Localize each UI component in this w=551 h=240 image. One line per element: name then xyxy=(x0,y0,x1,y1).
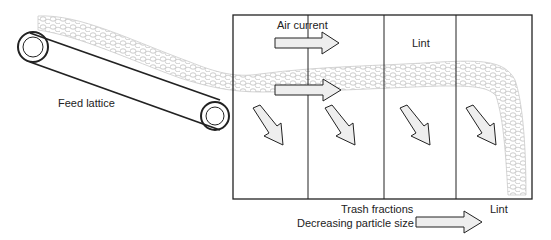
trash-fractions-label: Trash fractions xyxy=(341,204,413,215)
particle-size-arrow-icon xyxy=(416,211,482,233)
lint-top-label: Lint xyxy=(412,38,430,49)
roller-left-icon xyxy=(18,32,48,62)
diagram-canvas xyxy=(0,0,551,240)
roller-right-icon xyxy=(201,102,229,130)
arrow-down-right-icon xyxy=(400,105,430,145)
decreasing-particle-size-label: Decreasing particle size xyxy=(297,218,414,229)
arrow-down-right-icon xyxy=(253,105,283,145)
trash-fall-arrows xyxy=(253,105,496,145)
arrow-right-icon xyxy=(275,32,339,54)
feed-lattice-label: Feed lattice xyxy=(58,98,115,109)
arrow-down-right-icon xyxy=(466,105,496,145)
lint-bottom-label: Lint xyxy=(490,204,508,215)
air-current-label: Air current xyxy=(277,20,328,31)
arrow-down-right-icon xyxy=(325,105,355,145)
